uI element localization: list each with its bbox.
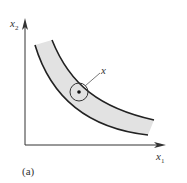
y-axis-label: x2 xyxy=(9,17,19,32)
x-axis-label: x1 xyxy=(155,150,165,165)
x-axis-label-subscript: 1 xyxy=(161,157,165,165)
panel-label: (a) xyxy=(22,165,35,178)
y-axis-label-subscript: 2 xyxy=(15,24,19,32)
point-label: x xyxy=(100,64,106,76)
point-dot xyxy=(77,90,81,94)
diagram-canvas: x x2 x1 (a) xyxy=(0,0,187,183)
point-leader-line xyxy=(85,73,100,86)
